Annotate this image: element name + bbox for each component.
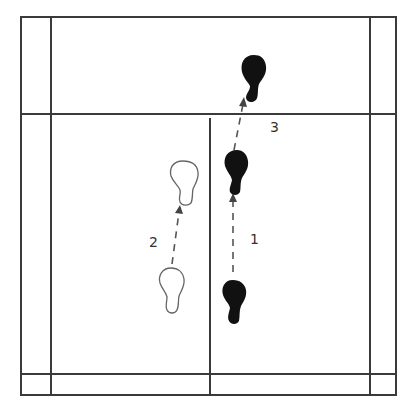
path-step-2	[172, 212, 179, 264]
footprint-outline-bottom-icon	[159, 268, 184, 313]
court-outer-boundary	[21, 17, 396, 395]
footprint-solid-top-icon	[242, 55, 267, 102]
footprints	[159, 55, 266, 324]
court-lines	[21, 17, 396, 395]
step-2-label: 2	[149, 234, 158, 250]
path-step-3	[234, 104, 243, 150]
footprint-solid-middle-icon	[225, 150, 249, 195]
step-3-label: 3	[270, 119, 279, 135]
arrow-step-3-icon	[239, 97, 247, 107]
court-diagram	[0, 0, 407, 419]
step-1-label: 1	[250, 231, 259, 247]
footprint-outline-middle-icon	[171, 161, 199, 205]
arrow-step-2-icon	[175, 205, 183, 214]
footprint-solid-bottom-icon	[222, 280, 246, 324]
